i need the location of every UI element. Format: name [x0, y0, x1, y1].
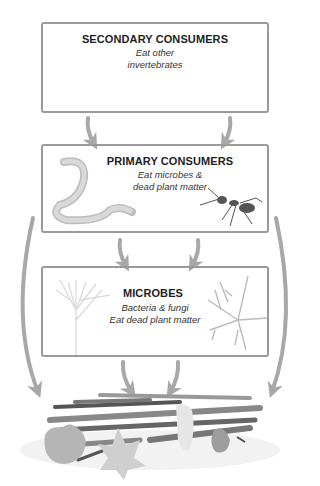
leaf-litter-icon	[20, 395, 280, 480]
primary-consumers-line-2: dead plant matter	[43, 181, 267, 193]
arrow-primary-to-litter-right	[272, 218, 286, 392]
secondary-consumers-box: SECONDARY CONSUMERS Eat other invertebra…	[41, 22, 269, 113]
microbes-box: MICROBES Bacteria & fungi Eat dead plant…	[41, 266, 269, 357]
primary-consumers-box: PRIMARY CONSUMERS Eat microbes & dead pl…	[41, 144, 269, 233]
microbes-line-2: Eat dead plant matter	[43, 314, 267, 326]
microbes-title: MICROBES	[43, 287, 267, 299]
microbes-line-1: Bacteria & fungi	[43, 302, 267, 314]
secondary-consumers-title: SECONDARY CONSUMERS	[43, 33, 267, 45]
arrow-primary-to-microbes-left	[120, 240, 126, 266]
primary-consumers-line-1: Eat microbes &	[43, 169, 267, 181]
secondary-consumers-line-2: invertebrates	[43, 59, 267, 71]
arrow-primary-to-microbes-right	[192, 240, 198, 266]
arrow-secondary-to-primary-right	[224, 118, 230, 144]
primary-consumers-title: PRIMARY CONSUMERS	[43, 155, 267, 167]
arrow-microbes-to-litter-right	[170, 362, 178, 392]
arrow-microbes-to-litter-left	[123, 362, 132, 392]
arrow-primary-to-litter-left	[23, 218, 38, 392]
arrow-secondary-to-primary-left	[88, 118, 94, 144]
secondary-consumers-line-1: Eat other	[43, 47, 267, 59]
